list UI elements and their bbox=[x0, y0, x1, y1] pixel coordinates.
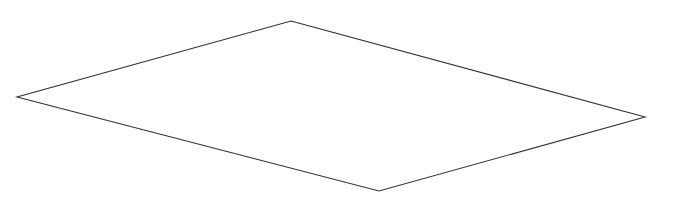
canvas-background bbox=[0, 0, 686, 204]
drawing-canvas bbox=[0, 0, 686, 204]
quadrilateral-figure bbox=[0, 0, 686, 204]
